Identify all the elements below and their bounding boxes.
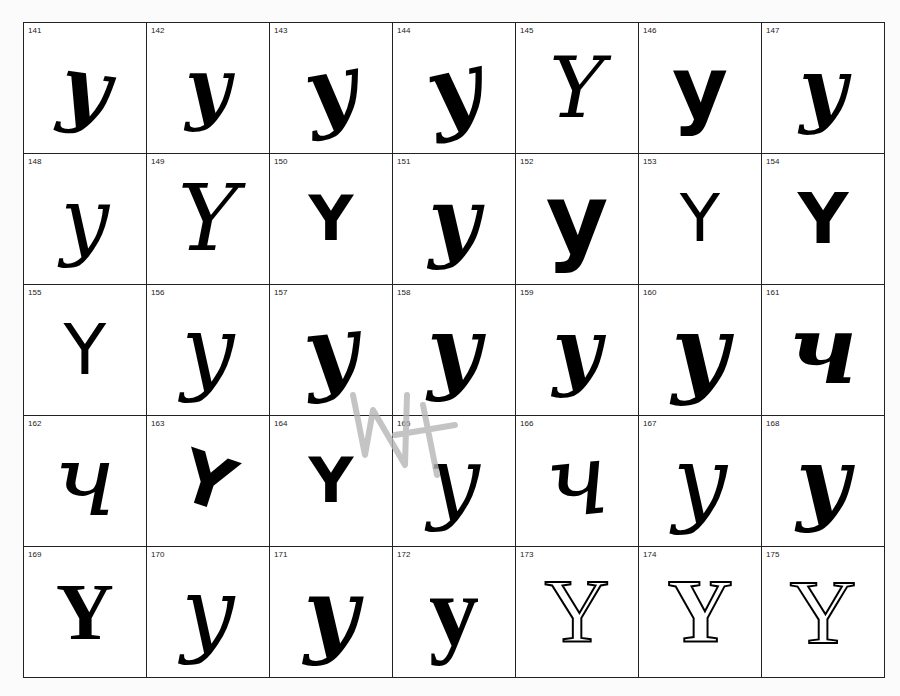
glyph-text: y [300, 301, 363, 398]
letter-y-glyph: y [639, 416, 761, 546]
specimen-cell: 165y [393, 416, 516, 547]
letter-y-glyph: y [393, 285, 515, 415]
specimen-cell: 172y [393, 547, 516, 678]
glyph-text: y [55, 43, 115, 133]
glyph-text: Y [680, 186, 720, 252]
specimen-cell: 143y [270, 23, 393, 154]
specimen-cell: 166ч [516, 416, 639, 547]
specimen-cell: 141y [24, 23, 147, 154]
letter-y-glyph: Y [639, 547, 761, 677]
specimen-cell: 151y [393, 154, 516, 285]
specimen-cell: 152y [516, 154, 639, 285]
glyph-text: y [673, 433, 727, 529]
glyph-text: Y [178, 173, 239, 265]
letter-y-glyph: Y [639, 154, 761, 284]
letter-y-glyph: y [762, 23, 884, 153]
glyph-text: ч [54, 431, 116, 531]
glyph-text: Y [549, 46, 604, 130]
glyph-text: Y [309, 450, 354, 512]
glyph-text: ч [789, 302, 858, 398]
letter-y-glyph: Y [147, 154, 269, 284]
specimen-cell: 153Y [639, 154, 762, 285]
letter-y-glyph: ч [24, 416, 146, 546]
specimen-cell: 171y [270, 547, 393, 678]
glyph-text: y [553, 308, 602, 392]
glyph-text: y [185, 49, 230, 127]
letter-y-glyph: y [393, 416, 515, 546]
letter-y-glyph: y [393, 23, 515, 153]
letter-y-glyph: y [24, 23, 146, 153]
letter-y-glyph: y [516, 285, 638, 415]
specimen-cell: 169Y [24, 547, 147, 678]
letter-y-glyph: y [516, 154, 638, 284]
letter-y-glyph: y [270, 285, 392, 415]
letter-y-glyph: Y [24, 285, 146, 415]
letter-y-glyph: Y [270, 416, 392, 546]
letter-y-glyph: y [393, 154, 515, 284]
letter-y-glyph: ч [516, 416, 638, 546]
glyph-text: Y [56, 572, 114, 652]
glyph-text: y [181, 303, 234, 397]
letter-y-glyph: Y [147, 416, 269, 546]
glyph-text: y [672, 301, 729, 399]
glyph-text: Y [798, 184, 849, 254]
letter-y-glyph: y [762, 416, 884, 546]
letter-y-glyph: Y [516, 23, 638, 153]
letter-y-glyph: Y [762, 547, 884, 677]
letter-y-glyph: y [147, 23, 269, 153]
letter-y-glyph: y [393, 547, 515, 677]
specimen-cell: 146y [639, 23, 762, 154]
glyph-text: y [546, 171, 609, 267]
glyph-text: Y [545, 567, 610, 657]
letter-y-glyph: y [270, 23, 392, 153]
letter-y-glyph: y [24, 154, 146, 284]
specimen-cell: 162ч [24, 416, 147, 547]
letter-y-glyph: ч [762, 285, 884, 415]
glyph-text: ч [541, 428, 613, 534]
glyph-text: y [61, 176, 110, 262]
glyph-text: y [181, 565, 234, 659]
specimen-cell: 168y [762, 416, 885, 547]
glyph-text: y [428, 175, 479, 263]
letter-y-glyph: y [639, 285, 761, 415]
letter-y-glyph: Y [270, 154, 392, 284]
specimen-cell: 170y [147, 547, 270, 678]
specimen-cell: 145Y [516, 23, 639, 154]
specimen-cell: 142y [147, 23, 270, 154]
specimen-cell: 154Y [762, 154, 885, 285]
specimen-cell: 149Y [147, 154, 270, 285]
glyph-text: Y [668, 567, 733, 657]
specimen-cell: 148y [24, 154, 147, 285]
glyph-text: y [429, 562, 479, 662]
specimen-cell: 163Y [147, 416, 270, 547]
letter-y-glyph: Y [762, 154, 884, 284]
glyph-text: y [428, 435, 480, 527]
specimen-grid: 141y142y143y144y145Y146y147y148y149Y150Y… [23, 22, 885, 678]
glyph-text: Y [790, 566, 856, 658]
glyph-text: y [427, 304, 480, 396]
glyph-text: y [418, 37, 489, 138]
specimen-cell: 173Y [516, 547, 639, 678]
glyph-text: y [799, 47, 847, 129]
glyph-text: y [304, 565, 359, 659]
glyph-text: Y [172, 439, 244, 524]
specimen-cell: 157y [270, 285, 393, 416]
specimen-cell: 175Y [762, 547, 885, 678]
glyph-text: y [672, 45, 728, 131]
specimen-cell: 155Y [24, 285, 147, 416]
specimen-cell: 164Y [270, 416, 393, 547]
letter-y-glyph: y [147, 285, 269, 415]
glyph-text: Y [309, 188, 354, 250]
specimen-cell: 158y [393, 285, 516, 416]
specimen-cell: 147y [762, 23, 885, 154]
specimen-cell: 161ч [762, 285, 885, 416]
glyph-text: Y [64, 315, 107, 385]
letter-y-glyph: y [270, 547, 392, 677]
letter-y-glyph: Y [24, 547, 146, 677]
specimen-cell: 159y [516, 285, 639, 416]
glyph-text: y [796, 435, 849, 527]
specimen-cell: 174Y [639, 547, 762, 678]
specimen-cell: 144y [393, 23, 516, 154]
letter-y-glyph: y [147, 547, 269, 677]
letter-y-glyph: y [639, 23, 761, 153]
